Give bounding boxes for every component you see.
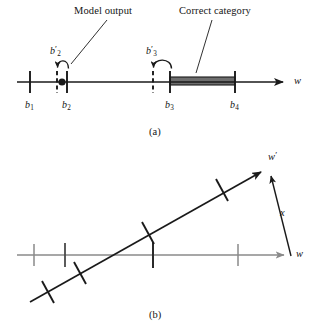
- panel-b-w-prime-ticks: [42, 179, 228, 303]
- panel-b-w-prime-axis: [30, 172, 261, 302]
- label-b3: b3: [165, 100, 174, 112]
- label-b2-prime-sub: 2: [57, 50, 61, 58]
- panel-b-w-prime-base: w: [268, 151, 275, 162]
- figure-svg: [0, 0, 318, 330]
- label-b1: b1: [25, 100, 34, 112]
- model-output-label: Model output: [74, 6, 132, 17]
- label-b1-sub: 1: [30, 104, 34, 112]
- label-b2-prime: b′2: [50, 45, 61, 58]
- model-output-dot: [58, 78, 65, 85]
- label-b4: b4: [230, 100, 239, 112]
- w-prime-tick-2: [74, 262, 86, 284]
- label-b2-sub: 2: [67, 104, 71, 112]
- model-output-leader: [71, 20, 107, 64]
- correct-category-bar: [170, 77, 235, 85]
- correct-category-label: Correct category: [179, 6, 251, 17]
- correct-category-leader: [196, 20, 212, 73]
- panel-b-caption: (b): [149, 310, 161, 321]
- panel-b: [17, 172, 291, 303]
- panel-b-w-prime-axis-label: w′: [268, 151, 277, 162]
- label-b3-prime-sub: 3: [153, 50, 157, 58]
- x-vector-label: x: [280, 208, 285, 219]
- panel-a-caption: (a): [149, 127, 161, 138]
- label-b2: b2: [62, 100, 71, 112]
- panel-b-w-axis-label: w: [296, 249, 303, 260]
- panel-b-w-prime-mark: ′: [275, 150, 277, 160]
- label-b3-prime: b′3: [146, 45, 157, 58]
- w-prime-tick-1: [42, 281, 54, 303]
- figure-container: Model output Correct category b′2 b′3 b1…: [0, 0, 318, 330]
- w-prime-tick-4: [216, 179, 228, 201]
- panel-a-w-axis-label: w: [294, 76, 301, 87]
- label-b3-sub: 3: [170, 104, 174, 112]
- label-b4-sub: 4: [235, 104, 239, 112]
- b3-shift-arrow: [154, 60, 172, 68]
- b2-shift-arrow: [58, 61, 69, 69]
